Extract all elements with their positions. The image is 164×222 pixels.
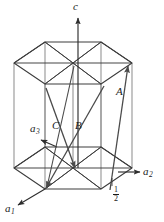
axis-a1-arrow (18, 189, 45, 205)
axis-label-a2: a2 (143, 166, 152, 177)
fraction-denominator: 2 (113, 195, 119, 203)
axis-label-a3: a3 (30, 123, 39, 134)
half-height-label: 1 2 (113, 186, 119, 204)
fraction-numerator: 1 (113, 186, 119, 194)
vector-B (46, 86, 104, 188)
axis-label-a1: a1 (5, 203, 14, 214)
vector-label-C: C (52, 120, 59, 131)
axis-label-c: c (73, 1, 78, 12)
axis-a3-arrow (41, 140, 57, 147)
vector-label-A: A (116, 86, 123, 97)
vector-label-B: B (75, 120, 82, 131)
crystal-structure-drawing (0, 0, 164, 222)
prism-vertical-edges (14, 42, 132, 189)
hcp-unit-cell-figure: c a1 a2 a3 A B C 1 2 (0, 0, 164, 222)
